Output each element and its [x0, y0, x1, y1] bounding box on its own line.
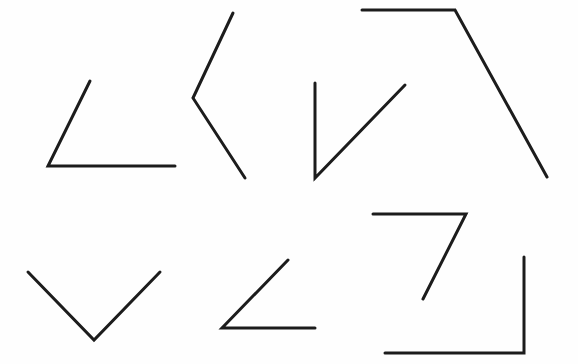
- angle-2: [193, 13, 245, 178]
- angles-diagram: [0, 0, 578, 364]
- angle-6: [222, 260, 315, 328]
- angle-5: [28, 272, 160, 340]
- angle-1: [48, 81, 175, 166]
- angle-3: [315, 83, 405, 178]
- angle-7: [373, 214, 466, 299]
- angle-4: [362, 10, 547, 177]
- angle-8: [385, 257, 524, 353]
